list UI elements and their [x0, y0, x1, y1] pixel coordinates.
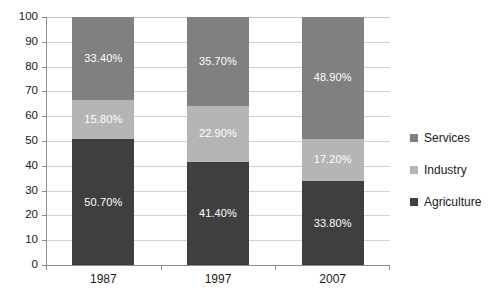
bar-value-label: 33.40%: [84, 53, 122, 64]
bar-value-label: 33.80%: [314, 218, 352, 229]
y-axis-label: 80: [4, 61, 38, 73]
y-axis-label: 10: [4, 234, 38, 246]
plot-area: 50.70%15.80%33.40%41.40%22.90%35.70%33.8…: [46, 17, 390, 265]
y-axis-label: 50: [4, 135, 38, 147]
x-axis-tick: [46, 265, 47, 270]
bar-segment-agriculture[interactable]: 50.70%: [72, 139, 134, 265]
bar-value-label: 50.70%: [84, 197, 122, 208]
bar-segment-services[interactable]: 35.70%: [187, 17, 249, 106]
bar-stack[interactable]: 50.70%15.80%33.40%: [72, 17, 134, 265]
legend-label: Agriculture: [424, 196, 481, 208]
legend-label: Industry: [424, 164, 467, 176]
y-axis-spine: [46, 17, 47, 265]
y-axis-label: 40: [4, 160, 38, 172]
legend-swatch-icon: [410, 134, 418, 142]
gridline: [46, 265, 390, 266]
y-axis-label: 60: [4, 110, 38, 122]
stacked-bar-chart: 0102030405060708090100 50.70%15.80%33.40…: [0, 0, 500, 295]
y-axis-label: 100: [4, 11, 38, 23]
legend-item[interactable]: Agriculture: [410, 186, 496, 218]
legend-label: Services: [424, 132, 470, 144]
y-axis-label: 30: [4, 185, 38, 197]
legend-item[interactable]: Industry: [410, 154, 496, 186]
x-axis-tick: [161, 265, 162, 270]
bar-value-label: 48.90%: [314, 72, 352, 83]
legend: ServicesIndustryAgriculture: [410, 122, 496, 218]
legend-item[interactable]: Services: [410, 122, 496, 154]
bar-value-label: 17.20%: [314, 154, 352, 165]
x-axis-label: 1987: [90, 272, 117, 286]
bar-segment-industry[interactable]: 17.20%: [302, 139, 364, 182]
bar-segment-agriculture[interactable]: 41.40%: [187, 162, 249, 265]
bar-stack[interactable]: 41.40%22.90%35.70%: [187, 17, 249, 265]
bar-value-label: 22.90%: [199, 128, 237, 139]
legend-swatch-icon: [410, 166, 418, 174]
bar-segment-industry[interactable]: 15.80%: [72, 100, 134, 139]
bar-value-label: 35.70%: [199, 56, 237, 67]
legend-swatch-icon: [410, 198, 418, 206]
x-axis-tick: [389, 265, 390, 270]
bar-segment-services[interactable]: 48.90%: [302, 17, 364, 138]
bar-value-label: 41.40%: [199, 208, 237, 219]
y-axis-label: 0: [4, 259, 38, 271]
x-axis-tick: [275, 265, 276, 270]
bar-segment-services[interactable]: 33.40%: [72, 17, 134, 100]
bar-segment-industry[interactable]: 22.90%: [187, 106, 249, 163]
bar-value-label: 15.80%: [84, 114, 122, 125]
x-axis-label: 2007: [319, 272, 346, 286]
bar-segment-agriculture[interactable]: 33.80%: [302, 181, 364, 265]
y-axis-label: 20: [4, 210, 38, 222]
y-axis-label: 70: [4, 86, 38, 98]
bar-stack[interactable]: 33.80%17.20%48.90%: [302, 17, 364, 265]
y-axis-label: 90: [4, 36, 38, 48]
x-axis-label: 1997: [205, 272, 232, 286]
